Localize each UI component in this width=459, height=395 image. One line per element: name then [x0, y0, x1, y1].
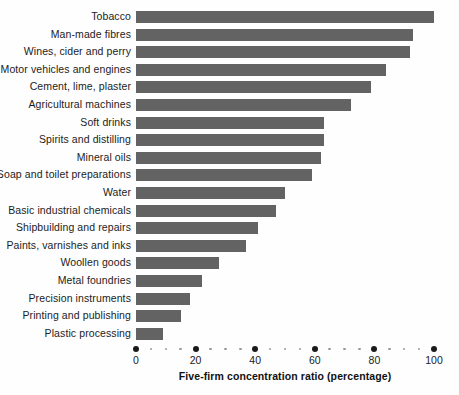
- bar-category-label: Plastic processing: [0, 327, 131, 340]
- chart-plot-area: TobaccoMan-made fibresWines, cider and p…: [0, 10, 459, 346]
- x-axis-tick: [431, 346, 437, 352]
- bar-track: [136, 117, 455, 129]
- bar-fill: [136, 81, 371, 93]
- bar-track: [136, 187, 455, 199]
- bar-track: [136, 310, 455, 322]
- bar-row: Printing and publishing: [0, 309, 459, 327]
- bar-track: [136, 29, 455, 41]
- bar-track: [136, 11, 455, 23]
- bar-fill: [136, 64, 386, 76]
- bar-category-label: Woollen goods: [0, 256, 131, 269]
- bar-fill: [136, 187, 285, 199]
- x-axis: 020406080100: [0, 346, 459, 366]
- bar-row: Spirits and distilling: [0, 133, 459, 151]
- bar-category-label: Water: [0, 186, 131, 199]
- x-axis-minor-tick: [224, 348, 227, 351]
- bar-category-label: Soft drinks: [0, 116, 131, 129]
- bar-fill: [136, 99, 351, 111]
- bar-row: Shipbuilding and repairs: [0, 221, 459, 239]
- x-axis-minor-tick: [284, 348, 287, 351]
- bar-category-label: Tobacco: [0, 10, 131, 23]
- bar-fill: [136, 152, 321, 164]
- x-axis-minor-tick: [328, 348, 331, 351]
- bar-row: Tobacco: [0, 10, 459, 28]
- bar-track: [136, 134, 455, 146]
- bar-category-label: Metal foundries: [0, 274, 131, 287]
- bar-category-label: Shipbuilding and repairs: [0, 221, 131, 234]
- x-axis-minor-tick: [239, 348, 242, 351]
- x-axis-minor-tick: [299, 348, 302, 351]
- x-axis-tick: [252, 346, 258, 352]
- bar-fill: [136, 275, 202, 287]
- bar-fill: [136, 222, 258, 234]
- x-axis-minor-tick: [209, 348, 212, 351]
- x-axis-minor-tick: [388, 348, 391, 351]
- bar-track: [136, 293, 455, 305]
- bar-row: Paints, varnishes and inks: [0, 239, 459, 257]
- bar-row: Cement, lime, plaster: [0, 80, 459, 98]
- bar-category-label: Precision instruments: [0, 292, 131, 305]
- bar-row: Wines, cider and perry: [0, 45, 459, 63]
- bar-row: Plastic processing: [0, 327, 459, 345]
- x-axis-minor-tick: [179, 348, 182, 351]
- x-axis-minor-tick: [150, 348, 153, 351]
- x-axis-tick-label: 80: [369, 354, 381, 366]
- bar-fill: [136, 46, 410, 58]
- bar-fill: [136, 293, 190, 305]
- x-axis-minor-tick: [403, 348, 406, 351]
- bar-track: [136, 328, 455, 340]
- bar-track: [136, 205, 455, 217]
- bar-track: [136, 64, 455, 76]
- bar-track: [136, 240, 455, 252]
- bar-fill: [136, 328, 163, 340]
- bar-track: [136, 152, 455, 164]
- bar-row: Agricultural machines: [0, 98, 459, 116]
- bar-category-label: Paints, varnishes and inks: [0, 239, 131, 252]
- bar-category-label: Cement, lime, plaster: [0, 80, 131, 93]
- x-axis-tick-label: 20: [190, 354, 202, 366]
- bar-fill: [136, 169, 312, 181]
- bar-track: [136, 222, 455, 234]
- bar-row: Soap and toilet preparations: [0, 168, 459, 186]
- bar-fill: [136, 205, 276, 217]
- bar-category-label: Soap and toilet preparations: [0, 168, 131, 181]
- bar-row: Motor vehicles and engines: [0, 63, 459, 81]
- bar-fill: [136, 134, 324, 146]
- bar-category-label: Motor vehicles and engines: [0, 63, 131, 76]
- bar-category-label: Mineral oils: [0, 151, 131, 164]
- bar-track: [136, 81, 455, 93]
- bar-category-label: Man-made fibres: [0, 28, 131, 41]
- bar-category-label: Printing and publishing: [0, 309, 131, 322]
- bar-row: Basic industrial chemicals: [0, 204, 459, 222]
- x-axis-minor-tick: [269, 348, 272, 351]
- bar-category-label: Spirits and distilling: [0, 133, 131, 146]
- bar-row: Water: [0, 186, 459, 204]
- x-axis-minor-tick: [343, 348, 346, 351]
- bar-row: Precision instruments: [0, 292, 459, 310]
- x-axis-tick-label: 0: [133, 354, 139, 366]
- bar-fill: [136, 29, 413, 41]
- bar-fill: [136, 240, 246, 252]
- bar-chart: TobaccoMan-made fibresWines, cider and p…: [0, 0, 459, 395]
- bar-track: [136, 169, 455, 181]
- bar-fill: [136, 257, 219, 269]
- bar-row: Metal foundries: [0, 274, 459, 292]
- x-axis-tick-label: 40: [249, 354, 261, 366]
- bar-fill: [136, 117, 324, 129]
- x-axis-tick-label: 60: [309, 354, 321, 366]
- x-axis-tick: [371, 346, 377, 352]
- x-axis-tick-label: 100: [425, 354, 443, 366]
- bar-track: [136, 46, 455, 58]
- x-axis-tick: [193, 346, 199, 352]
- x-axis-tick: [312, 346, 318, 352]
- x-axis-title: Five-firm concentration ratio (percentag…: [136, 370, 434, 382]
- x-axis-tick: [133, 346, 139, 352]
- bar-category-label: Wines, cider and perry: [0, 45, 131, 58]
- bar-fill: [136, 11, 434, 23]
- bar-track: [136, 275, 455, 287]
- bar-track: [136, 99, 455, 111]
- bar-category-label: Basic industrial chemicals: [0, 204, 131, 217]
- bar-row: Mineral oils: [0, 151, 459, 169]
- x-axis-minor-tick: [418, 348, 421, 351]
- bar-row: Soft drinks: [0, 116, 459, 134]
